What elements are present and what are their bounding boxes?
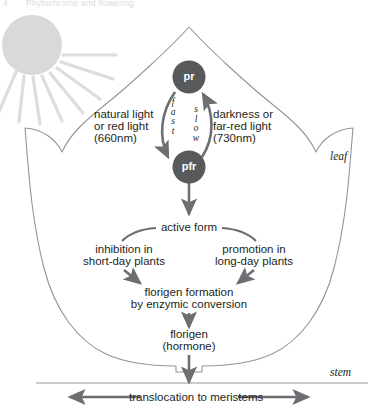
translocation-label: translocation to meristems <box>129 391 249 404</box>
left-stimulus-line3: (660nm) <box>94 132 184 145</box>
phytochrome-flowering-figure: 4 Phytochrome and flowering <box>0 0 378 417</box>
florigen-formation-line1: florigen formation <box>99 286 279 299</box>
leaf-label: leaf <box>330 150 347 162</box>
node-pr-label: pr <box>159 70 219 82</box>
left-stimulus-line2: or red light <box>94 120 184 133</box>
right-branch-arrow <box>238 270 254 283</box>
node-pfr-label: pfr <box>159 160 219 172</box>
right-stimulus-line1: darkness or <box>213 108 313 121</box>
florigen-line2: (hormone) <box>129 340 249 353</box>
branch-right-line2: long-day plants <box>192 255 316 268</box>
right-stimulus-line3: (730nm) <box>213 132 313 145</box>
left-stimulus-line1: natural light <box>94 108 184 121</box>
florigen-line1: florigen <box>129 328 249 341</box>
diagram-graphics <box>0 0 378 417</box>
slow-arrow <box>202 94 212 157</box>
active-form-label: active form <box>139 221 239 234</box>
branch-left-line1: inhibition in <box>62 243 186 256</box>
sun-icon <box>2 15 62 75</box>
branch-left-line2: short-day plants <box>62 255 186 268</box>
florigen-formation-line2: by enzymic conversion <box>99 298 279 311</box>
right-stimulus-line2: far-red light <box>213 120 313 133</box>
left-branch-arrow <box>124 270 140 283</box>
slow-label: s l o w <box>190 105 202 143</box>
branch-right-line1: promotion in <box>192 243 316 256</box>
stem-label: stem <box>330 366 351 378</box>
